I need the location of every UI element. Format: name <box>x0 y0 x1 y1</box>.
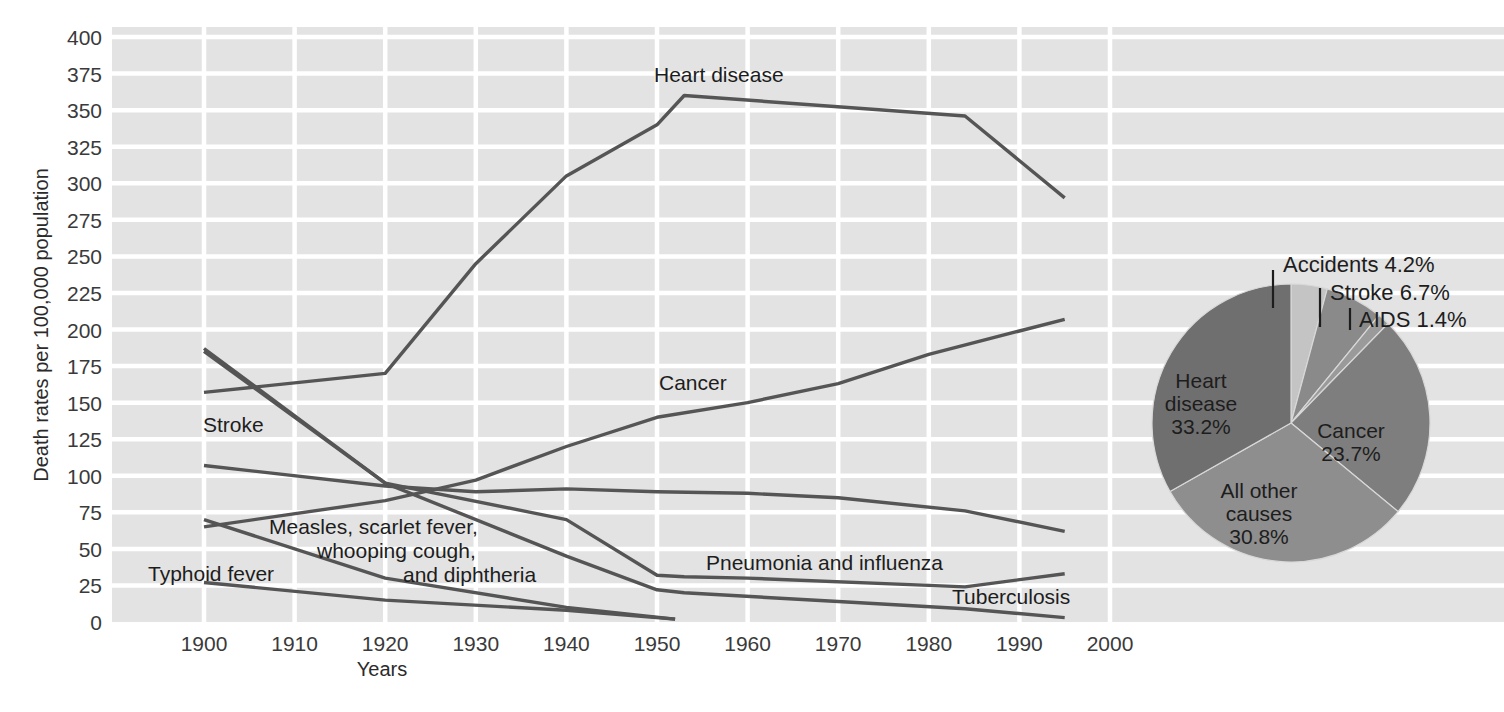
y-tick-300: 300 <box>67 172 102 195</box>
series-label-heart-disease: Heart disease <box>654 63 784 86</box>
figure-root: 0255075100125150175200225250275300325350… <box>0 0 1504 712</box>
pie-label-heart-line2: disease <box>1165 392 1237 415</box>
pie-label-other-value: 30.8% <box>1229 525 1289 548</box>
x-tick-1990: 1990 <box>996 632 1043 655</box>
y-tick-0: 0 <box>90 611 102 634</box>
pie-callout-stroke: Stroke 6.7% <box>1330 280 1450 305</box>
pie-label-cancer-value: 23.7% <box>1321 442 1381 465</box>
y-axis-title: Death rates per 100,000 population <box>30 168 52 482</box>
y-tick-325: 325 <box>67 136 102 159</box>
series-label-measles-line1: Measles, scarlet fever, <box>269 515 478 538</box>
pie-label-heart-line1: Heart <box>1175 369 1227 392</box>
series-label-measles-line2: whooping cough, <box>316 539 476 562</box>
pie-label-other-line1: All other <box>1220 479 1297 502</box>
pie-slice-label-all-other: All other causes 30.8% <box>1220 479 1297 548</box>
y-tick-250: 250 <box>67 245 102 268</box>
mortality-figure-svg: 0255075100125150175200225250275300325350… <box>0 0 1504 712</box>
y-tick-50: 50 <box>79 538 102 561</box>
y-tick-275: 275 <box>67 209 102 232</box>
y-tick-225: 225 <box>67 282 102 305</box>
x-tick-1980: 1980 <box>905 632 952 655</box>
pie-callout-accidents: Accidents 4.2% <box>1283 252 1435 277</box>
series-label-cancer: Cancer <box>659 371 727 394</box>
x-tick-1950: 1950 <box>634 632 681 655</box>
y-tick-125: 125 <box>67 428 102 451</box>
x-tick-1960: 1960 <box>724 632 771 655</box>
y-tick-400: 400 <box>67 26 102 49</box>
pie-label-cancer-name: Cancer <box>1317 419 1385 442</box>
y-tick-175: 175 <box>67 355 102 378</box>
y-tick-150: 150 <box>67 392 102 415</box>
y-tick-350: 350 <box>67 99 102 122</box>
series-label-tuberculosis: Tuberculosis <box>952 585 1070 608</box>
pie-slice-label-cancer: Cancer 23.7% <box>1317 419 1385 465</box>
x-tick-1920: 1920 <box>362 632 409 655</box>
x-tick-2000: 2000 <box>1087 632 1134 655</box>
pie-label-other-line2: causes <box>1226 502 1293 525</box>
x-tick-1930: 1930 <box>452 632 499 655</box>
x-tick-1900: 1900 <box>181 632 228 655</box>
x-tick-1970: 1970 <box>815 632 862 655</box>
series-label-pneumonia: Pneumonia and influenza <box>706 551 943 574</box>
pie-callout-aids: AIDS 1.4% <box>1359 307 1467 332</box>
pie-label-heart-value: 33.2% <box>1171 415 1231 438</box>
x-axis-title: Years <box>357 658 407 680</box>
y-tick-100: 100 <box>67 465 102 488</box>
y-tick-375: 375 <box>67 63 102 86</box>
y-tick-25: 25 <box>79 574 102 597</box>
pie-slice-label-heart-disease: Heart disease 33.2% <box>1165 369 1237 438</box>
series-label-stroke: Stroke <box>203 413 264 436</box>
y-tick-75: 75 <box>79 501 102 524</box>
x-tick-1910: 1910 <box>271 632 318 655</box>
series-label-typhoid: Typhoid fever <box>148 562 274 585</box>
y-tick-200: 200 <box>67 319 102 342</box>
x-tick-1940: 1940 <box>543 632 590 655</box>
series-label-measles-line3: and diphtheria <box>403 563 536 586</box>
